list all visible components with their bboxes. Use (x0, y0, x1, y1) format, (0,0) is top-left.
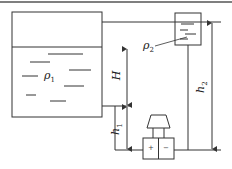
h2-label: h2 (195, 81, 209, 93)
reference-tank (175, 13, 201, 45)
transmitter-head (147, 115, 170, 128)
minus-port-label: − (163, 144, 169, 152)
diagram-canvas: ρ1 ρ2 H h1 h2 + − (0, 0, 232, 169)
liquid-waves (22, 54, 91, 101)
H-label: H (111, 71, 122, 81)
reference-waves (180, 24, 196, 39)
rho1-label: ρ1 (44, 70, 55, 84)
rho2-label: ρ2 (143, 40, 154, 54)
plus-port-label: + (148, 144, 154, 152)
h1-label: h1 (110, 123, 124, 135)
